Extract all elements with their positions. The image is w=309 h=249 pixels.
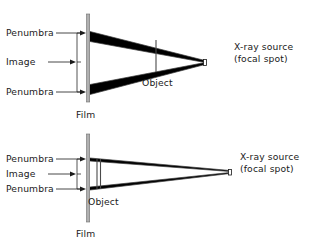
image-extent-bracket <box>77 33 81 92</box>
label-source-title: X-ray source <box>234 41 293 52</box>
label-image: Image <box>6 168 36 179</box>
label-film: Film <box>76 109 95 120</box>
figure-canvas: Penumbra Image Penumbra Film Object X-ra… <box>0 0 309 249</box>
label-object: Object <box>88 196 119 207</box>
object-marker <box>97 159 101 189</box>
label-source-subtitle: (focal spot) <box>240 163 294 174</box>
leader-penumbra-upper <box>56 157 86 162</box>
film-plate <box>87 134 90 222</box>
diagram-large-penumbra: Penumbra Image Penumbra Film Object X-ra… <box>0 0 309 125</box>
leader-image <box>48 60 76 65</box>
leader-penumbra-lower <box>56 90 86 95</box>
label-penumbra-upper: Penumbra <box>6 27 54 38</box>
label-image: Image <box>6 56 36 67</box>
diagram-small-penumbra: Penumbra Image Penumbra Object Film X-ra… <box>0 125 309 249</box>
label-source-subtitle: (focal spot) <box>234 53 288 64</box>
leader-image <box>48 172 76 177</box>
focal-spot-marker <box>204 60 207 66</box>
leader-penumbra-lower <box>56 187 86 192</box>
label-object: Object <box>142 77 173 88</box>
leader-penumbra-upper <box>56 31 86 36</box>
label-source-title: X-ray source <box>240 151 299 162</box>
image-extent-bracket <box>77 159 81 189</box>
label-film: Film <box>76 228 95 239</box>
label-penumbra-lower: Penumbra <box>6 86 54 97</box>
label-penumbra-lower: Penumbra <box>6 183 54 194</box>
film-plate <box>87 14 90 102</box>
focal-spot-marker <box>229 170 232 176</box>
label-penumbra-upper: Penumbra <box>6 153 54 164</box>
